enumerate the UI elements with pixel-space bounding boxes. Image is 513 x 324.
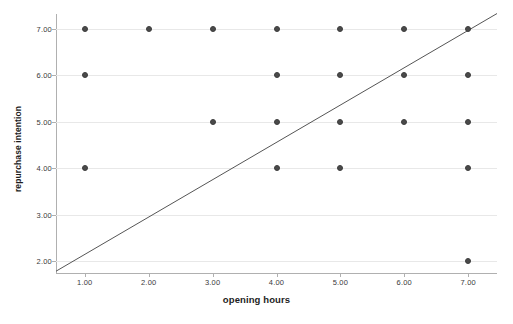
data-point xyxy=(274,119,280,125)
x-axis-tick-label: 7.00 xyxy=(460,278,475,287)
data-point xyxy=(465,258,471,264)
y-axis-tick-label: 5.00 xyxy=(37,117,52,126)
x-axis-tick-labels: 1.002.003.004.005.006.007.00 xyxy=(56,278,497,290)
data-point xyxy=(337,119,343,125)
x-axis-tick xyxy=(277,273,278,277)
data-point xyxy=(465,26,471,32)
y-axis-tick-label: 6.00 xyxy=(37,71,52,80)
regression-line xyxy=(56,14,497,274)
data-point xyxy=(210,26,216,32)
x-axis-tick xyxy=(213,273,214,277)
x-axis-tick-label: 2.00 xyxy=(141,278,156,287)
data-point xyxy=(337,26,343,32)
x-axis-tick xyxy=(85,273,86,277)
plot-area xyxy=(56,14,497,274)
x-axis-tick-label: 6.00 xyxy=(397,278,412,287)
y-axis-tick-label: 7.00 xyxy=(37,24,52,33)
y-axis-tick-label: 4.00 xyxy=(37,164,52,173)
x-axis-tick xyxy=(468,273,469,277)
x-axis-tick xyxy=(149,273,150,277)
y-axis-tick-labels: 2.003.004.005.006.007.00 xyxy=(24,14,52,274)
data-point xyxy=(274,26,280,32)
x-axis-title: opening hours xyxy=(0,294,513,305)
x-axis-tick-label: 1.00 xyxy=(77,278,92,287)
data-point xyxy=(401,72,407,78)
data-point xyxy=(210,119,216,125)
y-axis-tick xyxy=(52,215,56,216)
y-axis-tick xyxy=(52,29,56,30)
x-axis-tick-label: 5.00 xyxy=(333,278,348,287)
y-axis-tick xyxy=(52,261,56,262)
data-point xyxy=(401,119,407,125)
data-point xyxy=(465,165,471,171)
data-point xyxy=(401,26,407,32)
data-point xyxy=(465,119,471,125)
data-point xyxy=(337,72,343,78)
x-axis-tick-label: 3.00 xyxy=(205,278,220,287)
y-axis-title: repurchase intention xyxy=(13,69,23,229)
x-axis-tick xyxy=(340,273,341,277)
y-axis-tick xyxy=(52,168,56,169)
data-point xyxy=(274,72,280,78)
data-point xyxy=(82,72,88,78)
y-axis-line xyxy=(56,14,57,274)
data-point xyxy=(146,26,152,32)
y-axis-tick xyxy=(52,75,56,76)
x-axis-tick xyxy=(404,273,405,277)
gridline-horizontal xyxy=(56,215,497,216)
x-axis-tick-label: 4.00 xyxy=(269,278,284,287)
data-point xyxy=(465,72,471,78)
data-point xyxy=(337,165,343,171)
y-axis-tick-label: 2.00 xyxy=(37,257,52,266)
data-point xyxy=(82,26,88,32)
scatter-chart-figure: 2.003.004.005.006.007.00 1.002.003.004.0… xyxy=(0,0,513,324)
data-point xyxy=(82,165,88,171)
gridline-horizontal xyxy=(56,261,497,262)
y-axis-tick xyxy=(52,122,56,123)
y-axis-tick-label: 3.00 xyxy=(37,210,52,219)
data-point xyxy=(274,165,280,171)
